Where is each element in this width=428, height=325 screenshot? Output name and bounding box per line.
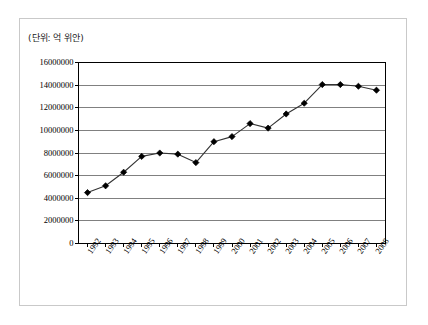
data-point-marker [337,81,343,87]
y-axis-tick-label: 16000000 [40,57,74,67]
y-axis-tick-label: 14000000 [40,80,74,90]
y-axis-tick-label: 6000000 [44,170,74,180]
y-axis-tick-label: 8000000 [44,148,74,158]
plot-area: 0200000040000006000000800000010000000120… [0,0,428,325]
y-axis-tick-label: 2000000 [44,215,74,225]
data-point-marker [355,83,361,89]
y-axis-tick-label: 10000000 [40,125,74,135]
chart-figure: (단위: 억 위안) 02000000400000060000008000000… [0,0,428,325]
y-axis-tick-label: 0 [69,238,73,248]
data-point-marker [157,150,163,156]
data-point-marker [175,151,181,157]
y-axis-tick-label: 4000000 [44,193,74,203]
y-axis-tick-label: 12000000 [40,102,74,112]
line-chart-svg [0,0,428,325]
data-point-marker [84,189,90,195]
data-point-marker [373,87,379,93]
